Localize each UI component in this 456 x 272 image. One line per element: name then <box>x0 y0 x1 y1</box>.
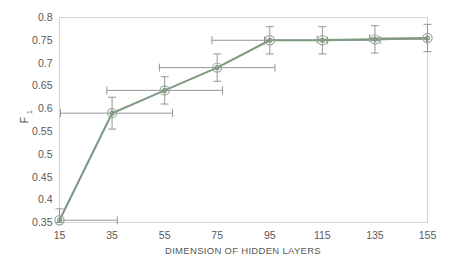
x-tick-label: 35 <box>106 229 118 241</box>
x-axis-title: DIMENSION OF HIDDEN LAYERS <box>165 245 321 256</box>
x-tick-label: 155 <box>419 229 437 241</box>
y-tick-label: 0.6 <box>38 102 53 114</box>
y-tick-label: 0.55 <box>32 125 53 137</box>
y-tick-label: 0.7 <box>38 57 53 69</box>
y-tick-label: 0.65 <box>32 79 53 91</box>
y-tick-label: 0.35 <box>32 216 53 228</box>
y-axis-title-subscript: 1 <box>26 110 33 114</box>
plot-area-frame <box>60 18 428 223</box>
x-tick-label: 95 <box>264 229 276 241</box>
y-tick-label: 0.4 <box>38 193 53 205</box>
chart-canvas: 0.350.40.450.50.550.60.650.70.750.8 1535… <box>0 0 456 272</box>
y-axis-title-text: F <box>18 117 30 123</box>
x-tick-label: 55 <box>159 229 171 241</box>
y-tick-label: 0.75 <box>32 34 53 46</box>
y-tick-label: 0.8 <box>38 11 53 23</box>
x-tick-label: 15 <box>54 229 66 241</box>
y-tick-label: 0.5 <box>38 148 53 160</box>
f1-vs-hidden-layer-dimension-chart: 0.350.40.450.50.550.60.650.70.750.8 1535… <box>0 0 456 272</box>
y-tick-label: 0.45 <box>32 171 53 183</box>
x-tick-label: 115 <box>314 229 331 241</box>
x-tick-label: 135 <box>366 229 384 241</box>
x-tick-label: 75 <box>211 229 223 241</box>
